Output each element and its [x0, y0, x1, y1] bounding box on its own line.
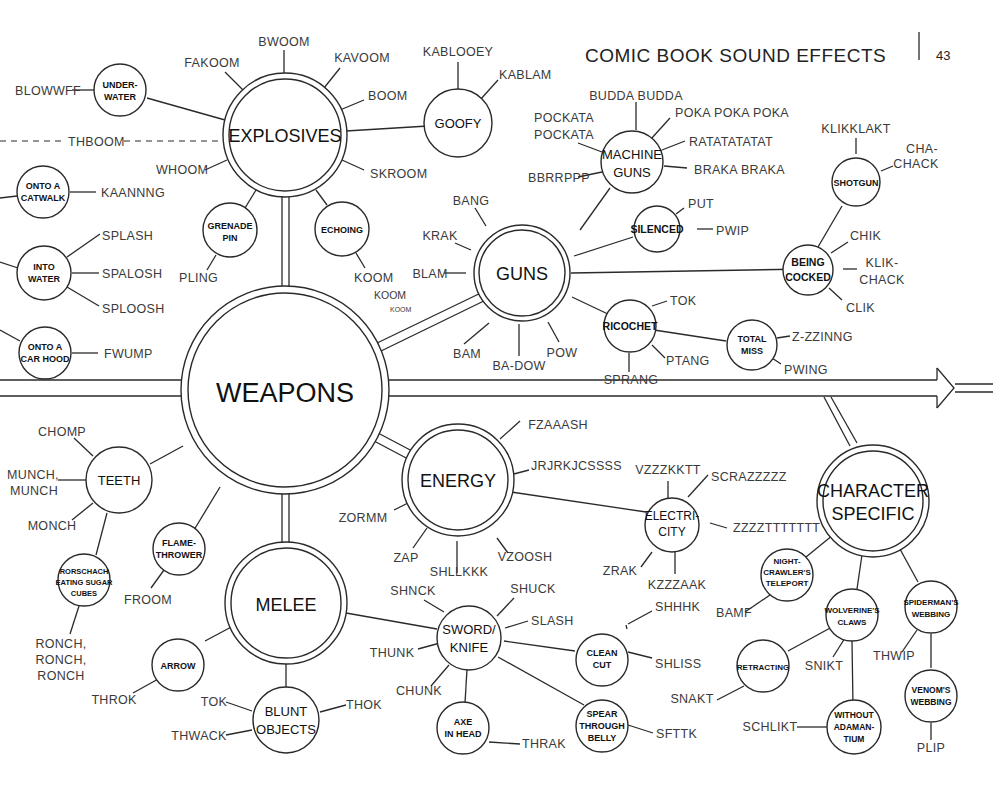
node-teeth[interactable]: TEETH [86, 447, 152, 513]
node-label: KNIFE [450, 640, 489, 655]
sound-label: BANG [453, 194, 490, 208]
sound-label: THRAK [522, 737, 566, 751]
node-label: TELEPORT [766, 579, 809, 588]
node-label: CRAWLER'S [763, 568, 811, 577]
sound-label: SFTTK [656, 727, 697, 741]
node-being-cocked[interactable]: BEING COCKED [783, 245, 833, 295]
node-without-adamantium[interactable]: WITHOUT ADAMAN- TIUM [827, 700, 881, 754]
node-echoing[interactable]: ECHOING [315, 202, 369, 256]
node-label: ARROW [161, 661, 196, 671]
node-venoms-webbing[interactable]: VENOM'S WEBBING [905, 670, 957, 722]
node-goofy[interactable]: GOOFY [424, 89, 492, 157]
node-arrow[interactable]: ARROW [152, 639, 204, 691]
node-rorschach[interactable]: RORSCHACH EATING SUGAR CUBES [56, 554, 114, 606]
node-label-specific: SPECIFIC [831, 504, 914, 524]
sound-label: KLIK- [866, 256, 899, 270]
sound-label: KZZZAAK [648, 578, 707, 592]
sound-label: SCHLIKT [743, 720, 798, 734]
node-label: MISS [741, 346, 763, 356]
node-guns[interactable]: GUNS [474, 225, 570, 321]
sound-label: BOOM [368, 89, 407, 103]
sound-label: THOK [346, 698, 382, 712]
node-machine-guns[interactable]: MACHINE GUNS [601, 131, 663, 193]
node-label: EATING SUGAR [56, 578, 114, 587]
sound-label: BUDDA BUDDA [589, 89, 683, 103]
node-electricity[interactable]: ELECTRI- CITY [645, 498, 700, 552]
node-label: SWORD/ [442, 622, 496, 637]
sound-label: CHACK [893, 157, 939, 171]
sound-label: POKA POKA POKA [675, 106, 789, 120]
sound-label: FWUMP [104, 347, 153, 361]
node-spear-through-belly[interactable]: SPEAR THROUGH BELLY [576, 700, 628, 752]
sound-label: SKROOM [370, 167, 427, 181]
node-sword-knife[interactable]: SWORD/ KNIFE [437, 606, 501, 670]
node-into-water[interactable]: INTO WATER [17, 246, 71, 300]
node-label: CUT [593, 660, 612, 670]
node-label: UNDER- [103, 80, 138, 90]
node-grenade-pin[interactable]: GRENADE PIN [203, 203, 257, 257]
sound-label: PWING [784, 363, 828, 377]
sound-label: SLASH [531, 614, 574, 628]
node-shotgun[interactable]: SHOTGUN [832, 158, 880, 206]
node-spidermans-webbing[interactable]: SPIDERMAN'S WEBBING [903, 581, 959, 633]
sound-label: THROK [91, 693, 137, 707]
node-label: SHOTGUN [834, 178, 879, 188]
node-label: BELLY [588, 733, 617, 743]
sound-label: PWIP [716, 224, 749, 238]
sound-label: VZOOSH [498, 550, 553, 564]
node-onto-catwalk[interactable]: ONTO A CATWALK [17, 166, 69, 218]
node-onto-car-hood[interactable]: ONTO A CAR HOOD [19, 327, 71, 379]
node-label: ELECTRI- [645, 509, 700, 523]
node-label: WATER [104, 92, 136, 102]
sound-label: POW [547, 346, 578, 360]
node-label: RORSCHACH [60, 567, 109, 576]
node-label: BLUNT [265, 704, 308, 719]
node-underwater[interactable]: UNDER- WATER [94, 64, 146, 116]
main-arrow [0, 368, 993, 408]
node-energy[interactable]: ENERGY [402, 424, 514, 536]
node-silenced[interactable]: SILENCED [630, 206, 684, 252]
node-label: ADAMAN- [834, 722, 875, 732]
node-total-miss[interactable]: TOTAL MISS [727, 320, 777, 370]
node-label: THROWER [156, 550, 203, 560]
node-flamethrower[interactable]: FLAME- THROWER [153, 523, 205, 575]
sound-label: PUT [688, 197, 714, 211]
node-label: MACHINE [602, 147, 662, 162]
sound-label: FROOM [124, 593, 172, 607]
node-label-guns: GUNS [496, 264, 548, 284]
sound-label: MONCH [28, 519, 77, 533]
sound-label: RONCH, [35, 637, 86, 651]
node-character-specific[interactable]: CHARACTER SPECIFIC [817, 445, 929, 557]
sound-label: SHLISS [655, 657, 701, 671]
node-weapons[interactable]: WEAPONS [181, 286, 389, 494]
node-label: WEBBING [910, 697, 951, 707]
sound-label: SHHHK [655, 600, 701, 614]
node-explosives[interactable]: EXPLOSIVES [223, 73, 347, 197]
node-label: CLAWS [838, 618, 868, 627]
sound-label: SHNCK [390, 584, 436, 598]
node-melee[interactable]: MELEE [225, 542, 347, 664]
node-retracting[interactable]: RETRACTING [737, 640, 789, 692]
sound-label: SCRAZZZZZ [711, 470, 787, 484]
sound-label: POCKATA [534, 128, 594, 142]
sound-effects-mindmap: COMIC BOOK SOUND EFFECTS 43 [0, 0, 993, 793]
sound-label: SHLLKKK [430, 565, 489, 579]
node-label-explosives: EXPLOSIVES [228, 126, 341, 146]
node-nightcrawler-teleport[interactable]: NIGHT- CRAWLER'S TELEPORT [761, 549, 813, 601]
node-wolverines-claws[interactable]: WOLVERINE'S CLAWS [824, 589, 880, 641]
sound-label: ZAP [393, 551, 418, 565]
node-label: PIN [222, 233, 237, 243]
node-axe-in-head[interactable]: AXE IN HEAD [437, 702, 489, 754]
sound-label: PTANG [666, 354, 710, 368]
page-number: 43 [936, 48, 950, 63]
node-label: TIUM [844, 734, 865, 744]
node-label: ONTO A [28, 342, 63, 352]
sound-label: FAKOOM [184, 56, 239, 70]
sound-label: ZORMM [339, 511, 388, 525]
node-blunt-objects[interactable]: BLUNT OBJECTS [253, 687, 319, 753]
node-ricochet[interactable]: RICOCHET [603, 300, 658, 352]
node-label: WOLVERINE'S [824, 606, 880, 615]
sound-label: RATATATATAT [689, 135, 773, 149]
sound-label: BWOOM [258, 35, 310, 49]
node-clean-cut[interactable]: CLEAN CUT [576, 634, 628, 686]
